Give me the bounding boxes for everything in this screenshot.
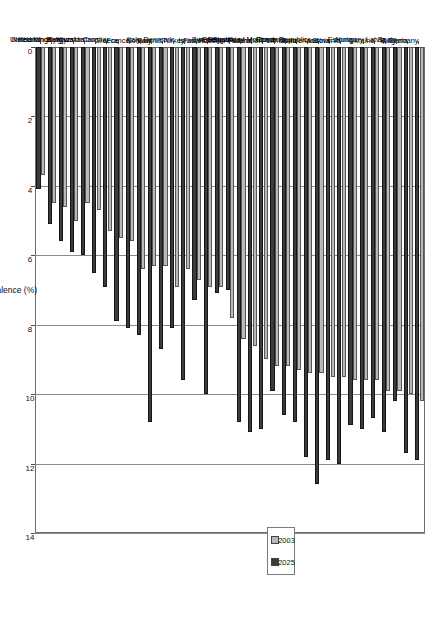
bar-2025 (59, 47, 63, 241)
bar-2025 (181, 47, 185, 380)
plot-area (35, 47, 425, 533)
bar-2025 (204, 47, 208, 394)
bar-2003 (197, 47, 201, 280)
category-tick (418, 41, 419, 44)
bar-2025 (92, 47, 96, 273)
bar-2025 (315, 47, 319, 484)
bar-2025 (282, 47, 286, 415)
gridline-14 (35, 533, 425, 534)
bars-container (35, 47, 425, 533)
bar-2025 (337, 47, 341, 464)
bar-2003 (208, 47, 212, 287)
bar-2025 (248, 47, 252, 432)
value-tick-label: 6 (28, 255, 32, 264)
chart-figure: GermanyBulgariaSpainLatviaUkraineHungary… (0, 0, 445, 630)
bar-2025 (348, 47, 352, 425)
bar-2025 (270, 47, 274, 391)
bar-2025 (382, 47, 386, 432)
bar-2003 (264, 47, 268, 359)
bar-2025 (326, 47, 330, 460)
category-axis: GermanyBulgariaSpainLatviaUkraineHungary… (35, 0, 425, 44)
bar-2003 (175, 47, 179, 287)
legend-label-2025: 2025 (278, 558, 295, 567)
bar-2003 (386, 47, 390, 391)
bar-2003 (297, 47, 301, 370)
bar-2003 (398, 47, 402, 391)
bar-2003 (186, 47, 190, 269)
bar-2003 (286, 47, 290, 366)
bar-2003 (364, 47, 368, 380)
bar-2003 (253, 47, 257, 346)
bar-2025 (226, 47, 230, 290)
bar-2025 (371, 47, 375, 418)
bar-2025 (170, 47, 174, 328)
value-tick-label: 10 (26, 394, 35, 403)
value-axis-title-text: Prevalence (%) (0, 285, 37, 295)
bar-2025 (36, 47, 40, 189)
value-tick-label: 8 (28, 325, 32, 334)
bar-2003 (308, 47, 312, 373)
bar-2025 (259, 47, 263, 429)
chart-rotated-canvas: GermanyBulgariaSpainLatviaUkraineHungary… (0, 0, 445, 630)
bar-2003 (230, 47, 234, 318)
bar-2003 (108, 47, 112, 231)
value-tick-label: 12 (26, 464, 35, 473)
bar-2003 (141, 47, 145, 269)
bar-2025 (304, 47, 308, 457)
bar-2025 (103, 47, 107, 287)
bar-2003 (41, 47, 45, 175)
category-tick (340, 41, 341, 44)
bar-2003 (275, 47, 279, 366)
bar-2025 (159, 47, 163, 349)
bar-2003 (375, 47, 379, 380)
category-label: Ireland (17, 36, 40, 45)
bar-2025 (215, 47, 219, 293)
legend-label-2003: 2003 (278, 536, 295, 545)
bar-2025 (293, 47, 297, 422)
value-tick-label: 4 (28, 186, 32, 195)
chart-legend: 2003 2025 (267, 527, 295, 575)
bar-2025 (237, 47, 241, 422)
bar-2003 (63, 47, 67, 207)
bar-2025 (81, 47, 85, 255)
value-tick-label: 14 (26, 533, 35, 542)
bar-2003 (97, 47, 101, 210)
bar-2003 (74, 47, 78, 221)
legend-item-2003: 2003 (271, 532, 291, 549)
bar-2025 (70, 47, 74, 252)
bar-2003 (342, 47, 346, 377)
bar-2003 (420, 47, 424, 401)
bar-2025 (360, 47, 364, 429)
value-tick-label: 0 (28, 47, 32, 56)
category-tick (262, 41, 263, 44)
bar-2025 (48, 47, 52, 224)
legend-item-2025: 2025 (271, 554, 291, 571)
bar-2003 (331, 47, 335, 377)
bar-2003 (242, 47, 246, 339)
bar-2025 (126, 47, 130, 328)
bar-2003 (152, 47, 156, 266)
bar-2025 (114, 47, 118, 321)
bar-2025 (415, 47, 419, 460)
bar-2025 (393, 47, 397, 401)
bar-2025 (137, 47, 141, 335)
bar-2003 (219, 47, 223, 287)
bar-2003 (320, 47, 324, 373)
category-tick (184, 41, 185, 44)
value-axis-title: Prevalence (%) (3, 47, 13, 533)
bar-2025 (148, 47, 152, 422)
bar-2003 (130, 47, 134, 241)
value-tick-label: 2 (28, 116, 32, 125)
bar-2003 (119, 47, 123, 238)
bar-2025 (192, 47, 196, 300)
bar-2025 (404, 47, 408, 453)
bar-2003 (86, 47, 90, 203)
bar-2003 (52, 47, 56, 203)
bar-2003 (164, 47, 168, 266)
bar-2003 (409, 47, 413, 394)
bar-2003 (353, 47, 357, 380)
